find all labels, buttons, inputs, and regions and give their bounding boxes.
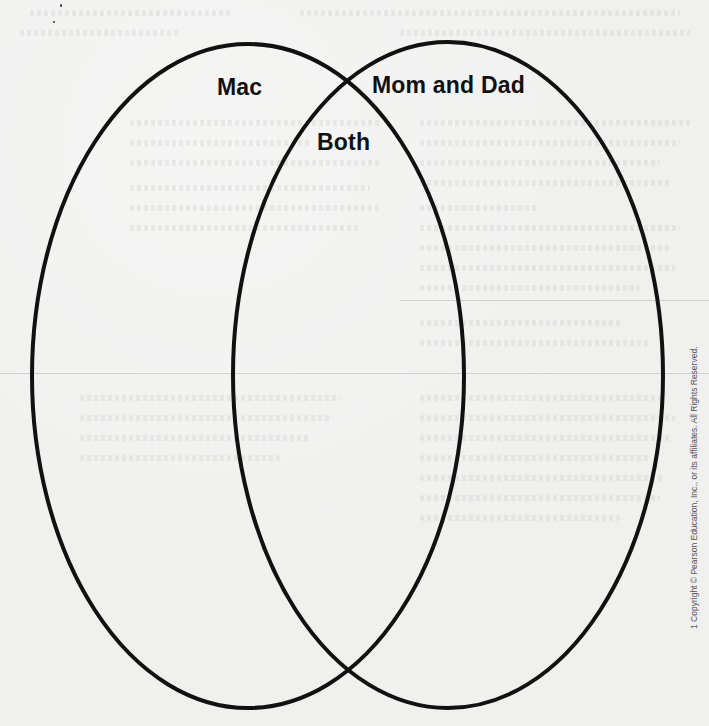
right-circle-label: Mom and Dad bbox=[372, 74, 525, 97]
worksheet-page: Mac Mom and Dad Both 1 Copyright © Pears… bbox=[0, 0, 709, 726]
copyright-notice: 1 Copyright © Pearson Education, Inc., o… bbox=[689, 347, 699, 630]
scan-speck bbox=[53, 21, 55, 23]
right-circle-mom-and-dad bbox=[233, 42, 663, 708]
overlap-label: Both bbox=[317, 131, 370, 154]
venn-diagram bbox=[0, 0, 709, 726]
scan-speck bbox=[60, 4, 62, 7]
left-circle-mac bbox=[32, 44, 464, 708]
left-circle-label: Mac bbox=[217, 76, 262, 99]
